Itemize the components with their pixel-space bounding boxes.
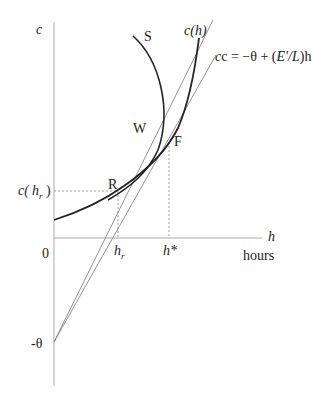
c-hr-prefix: c(: [18, 183, 29, 198]
hr-tick-label: hr: [114, 244, 125, 261]
c-hr-suffix: ): [42, 183, 50, 198]
curve-label-s: S: [144, 30, 152, 44]
line-label: cc = −θ + (E'/L)h: [215, 50, 311, 64]
c-hr-h: h: [32, 183, 39, 198]
hr-h: h: [114, 243, 121, 258]
line-label-ratio: E'/L: [277, 49, 300, 64]
neg-theta-label: -θ: [31, 337, 42, 351]
cost-curve: [54, 38, 199, 220]
x-axis-unit: hours: [243, 249, 274, 263]
y-axis-label: c: [36, 23, 42, 37]
line-label-prefix: c = −θ + (: [221, 49, 276, 64]
line-label-suffix: )h: [300, 49, 312, 64]
curve-label-ch: c(h): [184, 24, 207, 38]
x-axis-label: h: [268, 230, 275, 244]
origin-label: 0: [42, 247, 49, 261]
c-hr-tick-label: c(hr ): [18, 184, 51, 201]
point-label-w: W: [133, 122, 146, 136]
hr-sub: r: [121, 251, 125, 261]
budget-line: [54, 55, 216, 342]
h-star-tick-label: h*: [163, 244, 177, 258]
point-label-r: R: [108, 178, 117, 192]
steep-line: [54, 20, 213, 342]
point-label-f: F: [174, 135, 182, 149]
